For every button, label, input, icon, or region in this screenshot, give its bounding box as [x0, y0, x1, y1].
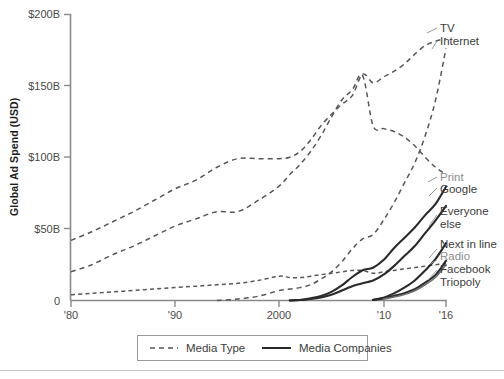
series-path-print	[71, 74, 446, 272]
series-label-next-in-line: Next in line	[440, 238, 497, 250]
series-label-google: Google	[440, 183, 477, 195]
y-label-100b: $100B	[28, 151, 60, 163]
x-tick-labels: '80 '90 2000 '10 '16	[64, 309, 453, 321]
x-label-1980: '80	[64, 309, 78, 321]
series-path-radio	[71, 263, 446, 295]
series-label-triopoly: Triopoly	[440, 276, 481, 288]
leader-tv	[427, 28, 437, 33]
series-label-internet: Internet	[440, 35, 480, 47]
y-label-0: 0	[54, 295, 60, 307]
series-label-facebook: Facebook	[440, 263, 491, 275]
leader-next-in-line	[429, 249, 437, 258]
y-label-150b: $150B	[28, 80, 60, 92]
series-labels: TV Internet Print Google Everyone else N…	[440, 22, 497, 288]
series-label-print: Print	[440, 171, 464, 183]
chart-container: $200B $150B $100B $50B 0 '80 '90 2000 '1…	[0, 0, 504, 379]
x-label-2010: '10	[377, 309, 391, 321]
series-label-radio: Radio	[440, 250, 470, 262]
series-path-tv	[71, 38, 446, 240]
leader-google	[429, 188, 437, 196]
x-label-2000: 2000	[267, 309, 291, 321]
legend-label-media-companies: Media Companies	[299, 342, 392, 354]
series-layer	[71, 38, 446, 300]
legend-label-media-type: Media Type	[186, 342, 245, 354]
y-tick-labels: $200B $150B $100B $50B 0	[28, 8, 60, 307]
y-label-200b: $200B	[28, 8, 60, 20]
y-axis-title: Global Ad Spend (USD)	[8, 98, 20, 216]
label-leaders	[427, 28, 437, 280]
x-label-1990: '90	[168, 309, 182, 321]
series-label-everyone: Everyone	[440, 205, 489, 217]
leader-internet	[432, 41, 437, 49]
y-label-50b: $50B	[34, 223, 60, 235]
series-path-facebook	[373, 261, 446, 300]
leader-print	[428, 177, 437, 182]
x-label-2016: '16	[439, 309, 453, 321]
series-label-tv: TV	[440, 22, 455, 34]
series-path-internet	[217, 48, 446, 300]
ad-spend-line-chart: $200B $150B $100B $50B 0 '80 '90 2000 '1…	[0, 0, 504, 379]
series-label-everyone-else: else	[440, 218, 461, 230]
axes	[64, 14, 447, 307]
chart-legend: Media Type Media Companies	[138, 336, 392, 361]
